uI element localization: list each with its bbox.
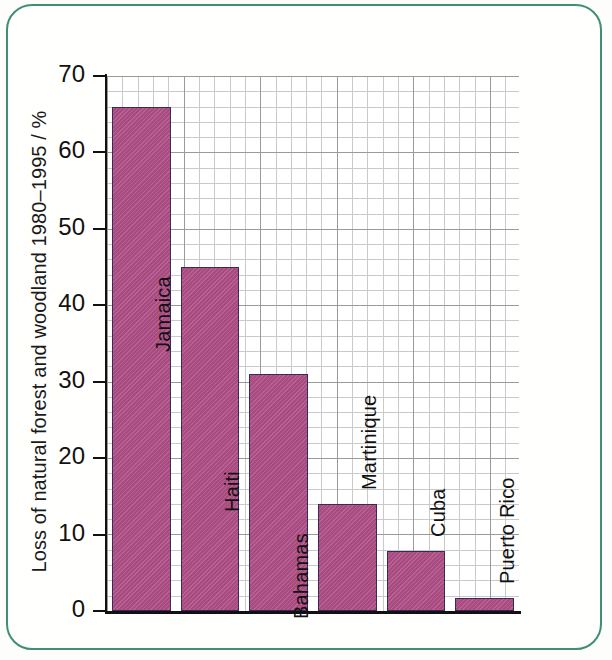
y-axis-tick <box>93 75 107 77</box>
y-axis-tick <box>93 151 107 153</box>
x-axis-line <box>105 611 521 614</box>
bar-category-label: Puerto Rico <box>496 477 519 584</box>
y-axis-tick <box>93 457 107 459</box>
y-axis-tick <box>93 534 107 536</box>
bar-chart: Loss of natural forest and woodland 1980… <box>0 0 612 660</box>
bar-category-label: Haiti <box>221 471 244 512</box>
bar <box>455 598 514 611</box>
y-axis-tick <box>93 610 107 612</box>
y-axis-tick <box>93 228 107 230</box>
y-axis-tick-label: 0 <box>15 597 85 621</box>
y-axis-tick-label: 60 <box>15 138 85 162</box>
bar <box>112 107 171 611</box>
y-axis-tick-label: 30 <box>15 368 85 392</box>
bar <box>318 504 377 611</box>
y-axis-tick-label: 50 <box>15 215 85 239</box>
y-axis-tick-label: 10 <box>15 521 85 545</box>
y-axis-tick-label: 40 <box>15 291 85 315</box>
bar-category-label: Jamaica <box>152 276 175 352</box>
bar-category-label: Cuba <box>427 489 450 538</box>
y-axis-tick-label: 70 <box>15 62 85 86</box>
bar <box>181 267 240 611</box>
bar-category-label: Bahamas <box>290 533 313 619</box>
bar <box>387 551 446 611</box>
bar-category-label: Martinique <box>358 395 381 490</box>
figure-page: Loss of natural forest and woodland 1980… <box>0 0 612 660</box>
y-axis-tick <box>93 304 107 306</box>
y-axis-tick <box>93 381 107 383</box>
y-axis-line <box>105 74 107 613</box>
y-axis-tick-label: 20 <box>15 444 85 468</box>
